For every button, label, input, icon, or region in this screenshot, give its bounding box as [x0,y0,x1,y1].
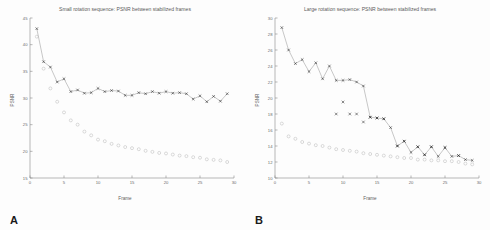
series-line-stabilized [282,28,472,161]
marker-cross [355,81,358,84]
marker-circle [314,144,317,147]
marker-cross [335,113,338,116]
marker-circle [328,146,331,149]
chart-a-plot: 05101520253015202530354045 [23,16,237,185]
marker-cross [212,95,215,98]
marker-circle [205,158,208,161]
series-line-stabilized [37,29,227,102]
chart-b: Large rotation sequence: PSNR between st… [245,0,490,205]
y-tick-label: 18 [268,112,273,117]
y-tick-label: 28 [268,32,273,37]
marker-cross [192,98,195,101]
panel-a-label: A [10,214,18,226]
marker-circle [144,149,147,152]
marker-circle [158,151,161,154]
x-tick-label: 20 [409,180,414,185]
x-tick-label: 0 [29,180,32,185]
marker-circle [342,149,345,152]
y-tick-label: 30 [268,16,273,21]
marker-cross [206,100,209,103]
y-tick-label: 22 [268,80,273,85]
y-tick-label: 15 [23,176,28,181]
marker-cross [396,145,399,148]
marker-circle [117,144,120,147]
marker-cross [301,58,304,61]
marker-circle [335,148,338,151]
marker-cross [199,95,202,98]
marker-cross [410,151,413,154]
marker-cross [56,81,59,84]
marker-circle [362,152,365,155]
marker-circle [178,154,181,157]
marker-circle [471,163,474,166]
marker-circle [76,123,79,126]
marker-circle [416,158,419,161]
marker-cross [423,154,426,157]
marker-circle [226,161,229,164]
chart-b-title: Large rotation sequence: PSNR between st… [304,6,437,12]
marker-circle [287,135,290,138]
marker-circle [185,155,188,158]
chart-b-ylabel: PSNR [255,93,260,106]
marker-cross [430,146,433,149]
y-tick-label: 20 [23,149,28,154]
y-tick-label: 40 [23,42,28,47]
marker-circle [430,159,433,162]
marker-cross [328,65,331,68]
marker-circle [56,100,59,103]
y-tick-label: 24 [268,64,273,69]
panel-b-label: B [255,214,263,226]
marker-cross [315,62,318,65]
marker-circle [137,148,140,151]
x-tick-label: 5 [63,180,66,185]
marker-cross [444,146,447,149]
marker-cross [226,92,229,95]
marker-circle [437,159,440,162]
marker-cross [437,155,440,158]
marker-cross [219,100,222,103]
marker-circle [348,149,351,152]
marker-circle [450,160,453,163]
y-tick-label: 45 [23,16,28,21]
marker-circle [171,153,174,156]
x-tick-label: 25 [443,180,448,185]
marker-circle [192,156,195,159]
chart-a: Small rotation sequence: PSNR between st… [0,0,245,205]
marker-circle [389,155,392,158]
marker-circle [294,137,297,140]
marker-circle [97,138,100,141]
x-tick-label: 15 [375,180,380,185]
figure-container: Small rotation sequence: PSNR between st… [0,0,490,230]
marker-circle [423,158,426,161]
y-tick-label: 12 [268,160,273,165]
y-tick-label: 10 [268,176,273,181]
marker-circle [110,142,113,145]
marker-circle [308,142,311,145]
marker-circle [301,141,304,144]
marker-cross [321,78,324,81]
chart-b-plot: 0510152025301012141618202224262830 [268,16,482,185]
chart-a-ylabel: PSNR [10,93,15,106]
y-tick-label: 16 [268,128,273,133]
marker-circle [212,158,215,161]
marker-cross [349,113,352,116]
panel-a: Small rotation sequence: PSNR between st… [0,0,245,230]
y-tick-label: 20 [268,96,273,101]
y-tick-label: 14 [268,144,273,149]
marker-cross [362,121,365,124]
x-tick-label: 0 [274,180,277,185]
marker-cross [63,78,66,81]
marker-cross [355,113,358,116]
marker-circle [396,156,399,159]
x-tick-label: 5 [308,180,311,185]
panel-b: Large rotation sequence: PSNR between st… [245,0,490,230]
chart-a-xlabel: Frame [118,196,132,201]
marker-circle [199,156,202,159]
marker-circle [35,35,38,38]
marker-circle [280,122,283,125]
x-tick-label: 20 [164,180,169,185]
marker-circle [69,119,72,122]
marker-cross [49,66,52,69]
marker-circle [464,162,467,165]
marker-circle [369,153,372,156]
